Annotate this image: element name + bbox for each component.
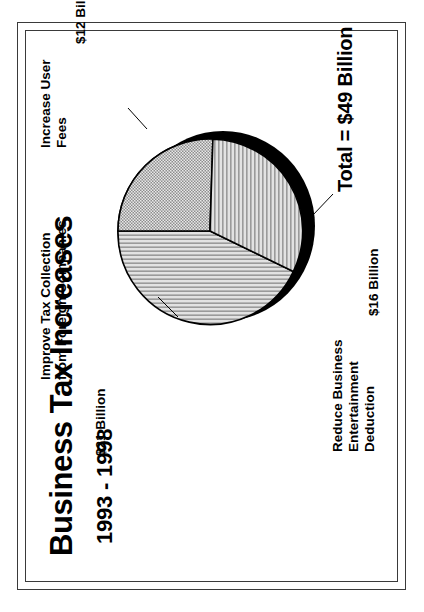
callout-value-foreign: $21 Billion — [93, 388, 109, 456]
pie-chart — [86, 94, 336, 344]
callout-label-entertainment: Reduce Business Entertainment Deduction — [330, 339, 378, 452]
callout-label-entertainment-line2: Entertainment — [346, 339, 362, 452]
callout-label-user-fees-line1: Increase User — [38, 59, 54, 148]
leader-line-user-fees — [128, 108, 147, 129]
callout-label-entertainment-line1: Reduce Business — [330, 339, 346, 452]
callout-label-foreign-line1: Improve Tax Collection — [38, 220, 54, 380]
callout-value-entertainment: $16 Billion — [366, 248, 382, 316]
slide-canvas: Business Tax Increases 1993 - 1998 — [0, 0, 424, 612]
callout-label-foreign: Improve Tax Collection from Foreign Comp… — [38, 220, 70, 380]
pie-slice-user-fees — [118, 139, 213, 231]
total-annotation: Total = $49 Billion — [334, 27, 358, 192]
slide-content-rotated: Business Tax Increases 1993 - 1998 — [0, 0, 424, 612]
pie-top-face — [118, 139, 303, 324]
callout-value-user-fees: $12 Billion — [73, 0, 89, 44]
leader-line-entertainment — [312, 194, 333, 216]
callout-label-entertainment-line3: Deduction — [362, 339, 378, 452]
callout-label-foreign-line2: from Foreign Companies — [54, 220, 70, 380]
callout-label-user-fees-line2: Fees — [54, 59, 70, 148]
callout-label-user-fees: Increase User Fees — [38, 59, 70, 148]
pie-chart-svg — [86, 94, 336, 344]
